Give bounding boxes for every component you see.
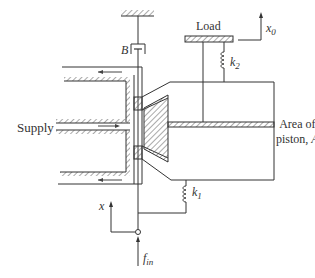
fin-label: fin <box>143 252 153 267</box>
x-label: x <box>99 200 104 212</box>
spool-land-lower <box>134 146 142 159</box>
top-ground <box>121 10 154 16</box>
load-plate <box>185 36 233 42</box>
piston-rod <box>168 122 274 127</box>
spool-rod <box>134 49 142 232</box>
piston-area-line2: piston, A <box>276 132 315 147</box>
spring-k1-label: k1 <box>192 186 202 201</box>
servo-valve-diagram <box>0 0 315 278</box>
supply-label: Supply <box>17 121 54 134</box>
supply-channel <box>56 124 130 130</box>
piston-head <box>144 95 168 162</box>
spring-k1-icon <box>138 180 186 213</box>
damper-label: B <box>121 44 128 56</box>
x0-label: x0 <box>266 22 276 37</box>
return-line-top <box>62 67 142 74</box>
x0-arrow-icon <box>238 12 263 40</box>
valve-body-upper <box>56 77 130 123</box>
x-arrow-icon <box>109 201 135 232</box>
spool-land-upper <box>134 97 142 110</box>
load-label: Load <box>196 20 221 32</box>
spring-k2-label: k2 <box>230 56 240 71</box>
valve-body-lower <box>56 130 130 176</box>
return-line-bottom <box>58 178 142 184</box>
spring-k2-icon <box>221 42 224 82</box>
input-pivot <box>136 230 141 235</box>
piston-area-label: Area of piston, A <box>276 117 315 147</box>
piston-area-line1: Area of <box>276 117 315 132</box>
input-force-arrow-icon <box>136 236 140 266</box>
